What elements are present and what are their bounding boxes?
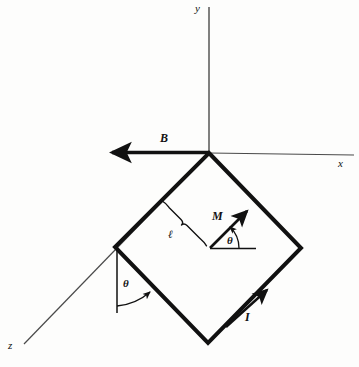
tilt-angle-arc <box>117 292 150 306</box>
side-length-label: ℓ <box>168 229 173 240</box>
moment-angle-label: θ <box>227 235 233 246</box>
y-axis-label: y <box>195 3 200 14</box>
loop-tilt-angle-label: θ <box>123 278 129 289</box>
x-axis-line <box>209 153 354 155</box>
x-axis-label: x <box>338 158 343 169</box>
magnetic-field-label: B <box>160 132 168 144</box>
diagram-canvas <box>0 0 359 367</box>
current-label: I <box>245 311 250 323</box>
physics-diagram-figure: y x z B M I θ θ ℓ <box>0 0 359 367</box>
square-current-loop <box>115 153 301 343</box>
loop-outline <box>115 153 301 343</box>
magnetic-moment-label: M <box>212 210 223 222</box>
z-axis-label: z <box>8 340 12 351</box>
